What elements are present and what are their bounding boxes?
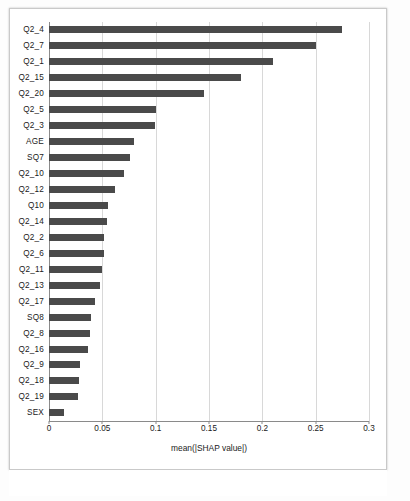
bar-row: Q2_9	[49, 357, 369, 373]
bar-row: Q2_19	[49, 389, 369, 405]
bar	[49, 266, 102, 273]
bar	[49, 170, 124, 177]
x-axis-tick-label: 0.15	[201, 424, 217, 433]
bar	[49, 393, 78, 400]
bar	[49, 58, 273, 65]
bar-row: Q2_6	[49, 245, 369, 261]
y-axis-tick-label: Q2_18	[0, 376, 44, 385]
bar-row: Q2_1	[49, 54, 369, 70]
y-axis-tick-label: Q2_5	[0, 105, 44, 114]
y-axis-tick-label: SQ8	[0, 313, 44, 322]
y-axis-tick-label: Q2_1	[0, 57, 44, 66]
bar-row: Q2_11	[49, 261, 369, 277]
bar-row: Q2_5	[49, 102, 369, 118]
plot-area: Q2_4Q2_7Q2_1Q2_15Q2_20Q2_5Q2_3AGESQ7Q2_1…	[49, 22, 369, 421]
bar	[49, 377, 79, 384]
bar	[49, 106, 156, 113]
bar-row: Q2_2	[49, 229, 369, 245]
bar	[49, 90, 204, 97]
y-axis-tick-label: Q2_19	[0, 392, 44, 401]
y-axis-tick-label: Q2_4	[0, 25, 44, 34]
bar-row: Q2_16	[49, 341, 369, 357]
bar	[49, 234, 104, 241]
y-axis-tick-label: Q2_17	[0, 297, 44, 306]
x-axis-ticks: 00.050.10.150.20.250.3	[49, 424, 369, 438]
y-axis-tick-label: SQ7	[0, 153, 44, 162]
bar	[49, 361, 80, 368]
x-axis-tick-label: 0.05	[94, 424, 110, 433]
x-axis-tick-label: 0.25	[308, 424, 324, 433]
bar-row: Q2_4	[49, 22, 369, 38]
bar-row: Q2_12	[49, 182, 369, 198]
x-axis-tick-label: 0.1	[150, 424, 161, 433]
bar	[49, 202, 108, 209]
bar-row: Q2_20	[49, 86, 369, 102]
bar	[49, 74, 241, 81]
y-axis-tick-label: Q2_15	[0, 73, 44, 82]
bar-row: Q2_13	[49, 277, 369, 293]
bar	[49, 42, 316, 49]
bar-row: Q2_18	[49, 373, 369, 389]
y-axis-tick-label: AGE	[0, 137, 44, 146]
bar	[49, 282, 100, 289]
bar-row: Q2_14	[49, 213, 369, 229]
bar-row: SQ8	[49, 309, 369, 325]
bar	[49, 218, 107, 225]
bar-rows: Q2_4Q2_7Q2_1Q2_15Q2_20Q2_5Q2_3AGESQ7Q2_1…	[49, 22, 369, 421]
y-axis-tick-label: Q2_6	[0, 249, 44, 258]
y-axis-tick-label: Q2_14	[0, 217, 44, 226]
bar	[49, 26, 342, 33]
y-axis-tick-label: Q2_3	[0, 121, 44, 130]
y-axis-tick-label: Q2_16	[0, 345, 44, 354]
bar-row: Q2_7	[49, 38, 369, 54]
y-axis-tick-label: Q2_9	[0, 360, 44, 369]
y-axis-tick-label: SEX	[0, 408, 44, 417]
y-axis-tick-label: Q2_12	[0, 185, 44, 194]
bar-row: Q10	[49, 197, 369, 213]
y-axis-tick-label: Q2_10	[0, 169, 44, 178]
bar	[49, 298, 95, 305]
bar	[49, 330, 90, 337]
bar	[49, 186, 115, 193]
bar-row: Q2_3	[49, 118, 369, 134]
bar	[49, 409, 64, 416]
page-bottom-margin	[9, 470, 387, 496]
y-axis-tick-label: Q2_13	[0, 281, 44, 290]
bar	[49, 346, 88, 353]
bar	[49, 154, 130, 161]
bar	[49, 122, 155, 129]
y-axis-tick-label: Q2_20	[0, 89, 44, 98]
bar-row: Q2_15	[49, 70, 369, 86]
y-axis-tick-label: Q2_7	[0, 41, 44, 50]
x-axis-title: mean(|SHAP value|)	[49, 443, 369, 453]
bar-row: Q2_10	[49, 166, 369, 182]
bar-row: AGE	[49, 134, 369, 150]
y-axis-tick-label: Q2_8	[0, 329, 44, 338]
bar	[49, 314, 91, 321]
y-axis-tick-label: Q2_11	[0, 265, 44, 274]
bar-row: SEX	[49, 405, 369, 421]
bar	[49, 250, 104, 257]
shap-feature-importance-figure: Q2_4Q2_7Q2_1Q2_15Q2_20Q2_5Q2_3AGESQ7Q2_1…	[0, 0, 410, 501]
gridline	[369, 22, 370, 421]
y-axis-tick-label: Q10	[0, 201, 44, 210]
x-axis-tick-label: 0.2	[257, 424, 268, 433]
bar-row: SQ7	[49, 150, 369, 166]
y-axis-tick-label: Q2_2	[0, 233, 44, 242]
bar	[49, 138, 134, 145]
bar-row: Q2_17	[49, 293, 369, 309]
bar-row: Q2_8	[49, 325, 369, 341]
x-axis-tick-label: 0.3	[363, 424, 374, 433]
x-axis-tick-label: 0	[47, 424, 52, 433]
